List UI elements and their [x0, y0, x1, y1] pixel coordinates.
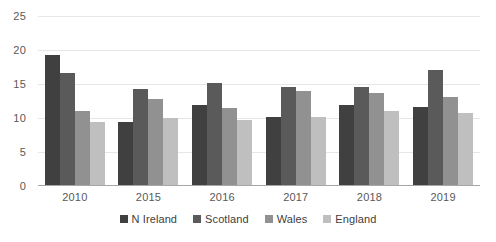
bar[interactable]	[443, 97, 458, 186]
legend-item[interactable]: Wales	[265, 213, 308, 225]
legend-label: Wales	[277, 213, 308, 225]
bar-group	[45, 16, 105, 186]
bar[interactable]	[354, 87, 369, 186]
bar[interactable]	[428, 70, 443, 186]
legend-item[interactable]: N Ireland	[120, 213, 178, 225]
bar[interactable]	[90, 122, 105, 186]
bar-group	[266, 16, 326, 186]
y-axis-tick-label: 5	[20, 146, 26, 158]
legend-label: N Ireland	[132, 213, 178, 225]
bar[interactable]	[133, 89, 148, 186]
x-axis-tick-label: 2016	[210, 188, 235, 206]
bar[interactable]	[60, 73, 75, 186]
bar-group	[413, 16, 473, 186]
bar[interactable]	[311, 117, 326, 186]
chart-legend: N IrelandScotlandWalesEngland	[0, 213, 496, 225]
x-axis: 201020152016201720182019	[38, 188, 480, 206]
y-axis-tick-label: 20	[13, 44, 26, 56]
bar[interactable]	[222, 108, 237, 186]
bar[interactable]	[75, 111, 90, 186]
x-axis-tick-label: 2018	[357, 188, 382, 206]
bar[interactable]	[207, 83, 222, 186]
bar[interactable]	[413, 107, 428, 186]
legend-swatch-icon	[120, 215, 128, 223]
bar[interactable]	[192, 105, 207, 186]
bar[interactable]	[266, 117, 281, 186]
bar[interactable]	[384, 111, 399, 186]
x-axis-tick-label: 2017	[283, 188, 308, 206]
bar-group	[118, 16, 178, 186]
y-axis-tick-label: 15	[13, 78, 26, 90]
bar[interactable]	[163, 118, 178, 186]
y-axis-tick-label: 25	[13, 10, 26, 22]
bar-group	[339, 16, 399, 186]
legend-swatch-icon	[265, 215, 273, 223]
bar[interactable]	[339, 105, 354, 186]
bar[interactable]	[237, 120, 252, 186]
y-axis-tick-label: 0	[20, 180, 26, 192]
y-axis-tick-label: 10	[13, 112, 26, 124]
bar[interactable]	[369, 93, 384, 186]
legend-label: Scotland	[205, 213, 249, 225]
bar[interactable]	[281, 87, 296, 186]
bar[interactable]	[148, 99, 163, 186]
bar[interactable]	[118, 122, 133, 186]
legend-item[interactable]: England	[323, 213, 376, 225]
bar[interactable]	[296, 91, 311, 186]
x-axis-tick-label: 2015	[136, 188, 161, 206]
plot-area	[38, 16, 480, 186]
legend-swatch-icon	[193, 215, 201, 223]
x-axis-tick-label: 2019	[430, 188, 455, 206]
legend-item[interactable]: Scotland	[193, 213, 249, 225]
bar-groups	[38, 16, 480, 186]
x-axis-line	[38, 185, 480, 186]
y-axis: 0510152025	[0, 16, 32, 186]
bar-group	[192, 16, 252, 186]
legend-label: England	[335, 213, 376, 225]
x-axis-tick-label: 2010	[62, 188, 87, 206]
bar[interactable]	[458, 113, 473, 186]
bar-chart: 0510152025 201020152016201720182019 N Ir…	[0, 0, 496, 242]
legend-swatch-icon	[323, 215, 331, 223]
bar[interactable]	[45, 55, 60, 186]
